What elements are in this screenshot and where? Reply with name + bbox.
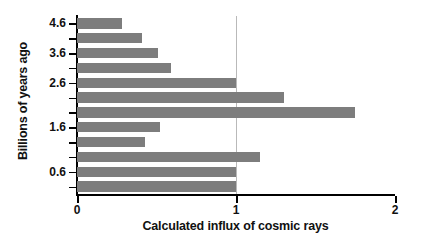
- bar-row: [77, 48, 395, 58]
- x-tick: [77, 196, 79, 203]
- plot-area: [77, 16, 395, 194]
- bar-row: [77, 63, 395, 73]
- y-tick-label: 1.6: [26, 120, 66, 134]
- x-tick-label: 1: [233, 203, 240, 217]
- bar: [77, 137, 145, 147]
- bar: [77, 122, 160, 132]
- bar-row: [77, 167, 395, 177]
- y-tick-label: 4.6: [26, 16, 66, 30]
- bar: [77, 63, 171, 73]
- bar: [77, 92, 284, 102]
- bar-series: [77, 16, 395, 194]
- bar-row: [77, 18, 395, 28]
- chart-figure: Billions of years ago 4.63.62.61.60.6 01…: [0, 0, 426, 243]
- bar: [77, 78, 236, 88]
- x-tick: [395, 196, 397, 203]
- bar-row: [77, 137, 395, 147]
- bar: [77, 167, 236, 177]
- x-tick-label: 0: [74, 203, 81, 217]
- y-tick-label: 0.6: [26, 165, 66, 179]
- bar: [77, 181, 236, 191]
- x-axis-title: Calculated influx of cosmic rays: [76, 219, 395, 233]
- bar-row: [77, 181, 395, 191]
- x-tick: [236, 196, 238, 203]
- bar-row: [77, 33, 395, 43]
- y-tick-label: 3.6: [26, 46, 66, 60]
- y-axis-tick-labels: 4.63.62.61.60.6: [20, 0, 66, 243]
- bar: [77, 107, 355, 117]
- bar: [77, 152, 260, 162]
- bar-row: [77, 152, 395, 162]
- bar: [77, 18, 122, 28]
- bar: [77, 33, 142, 43]
- bar-row: [77, 107, 395, 117]
- y-tick-label: 2.6: [26, 76, 66, 90]
- bar-row: [77, 122, 395, 132]
- bar: [77, 48, 158, 58]
- bar-row: [77, 78, 395, 88]
- bar-row: [77, 92, 395, 102]
- x-tick-label: 2: [392, 203, 399, 217]
